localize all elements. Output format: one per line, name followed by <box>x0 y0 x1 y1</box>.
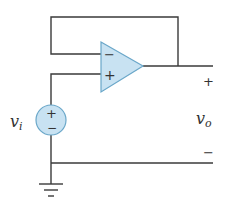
source-plus-symbol: + <box>46 106 57 121</box>
source-label: vi <box>10 112 23 133</box>
opamp-noninverting-symbol: + <box>104 67 116 83</box>
circuit-diagram: − + + − vi + vo − <box>0 0 229 209</box>
voltage-source: + − <box>36 105 66 135</box>
output-plus-symbol: + <box>203 74 214 89</box>
opamp: − + <box>101 42 143 92</box>
opamp-inverting-symbol: − <box>104 47 115 62</box>
ground-icon <box>39 184 63 196</box>
source-minus-symbol: − <box>47 121 57 135</box>
output-minus-symbol: − <box>203 145 214 160</box>
output-label: vo <box>196 109 212 130</box>
noninverting-input-wire <box>51 74 101 105</box>
